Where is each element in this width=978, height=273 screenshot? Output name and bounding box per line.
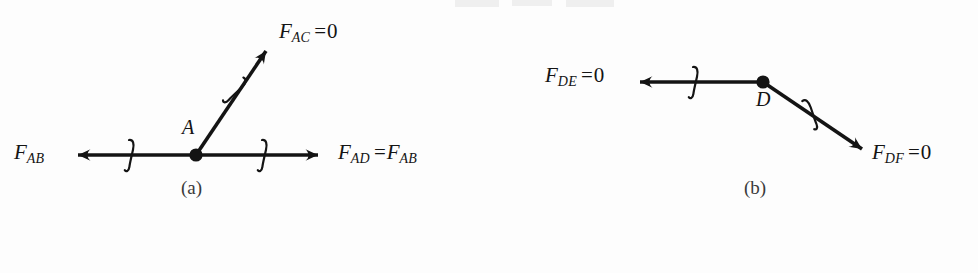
force-symbol: F: [545, 63, 558, 87]
figure-container: FAB FAD=FAB FAC=0 A (a) FDE=0 FDF=0 D (b…: [0, 0, 978, 273]
force-value-subscript: AB: [400, 151, 418, 166]
equals-sign: =: [310, 19, 327, 43]
force-symbol: F: [338, 140, 351, 164]
joint-dot-a: [189, 148, 202, 161]
panel-caption-a: (a): [181, 178, 202, 197]
force-subscript: DF: [885, 151, 904, 166]
force-label-ac: FAC=0: [279, 21, 337, 45]
equals-sign: =: [904, 140, 921, 164]
force-subscript: AD: [351, 151, 370, 166]
force-label-ab: FAB: [14, 142, 44, 166]
force-subscript: DE: [558, 74, 577, 89]
force-value: 0: [921, 140, 932, 164]
force-value: 0: [594, 63, 605, 87]
force-subscript: AB: [27, 151, 45, 166]
equals-sign: =: [577, 63, 594, 87]
force-label-ad: FAD=FAB: [338, 142, 417, 166]
joint-dot-d: [756, 75, 769, 88]
panel-b-artwork: [640, 67, 862, 149]
force-symbol: F: [279, 19, 292, 43]
force-symbol: F: [14, 140, 27, 164]
panel-a-artwork: [78, 51, 318, 171]
panel-caption-b: (b): [744, 178, 766, 197]
force-arrow-ac: [196, 51, 266, 155]
force-label-de: FDE=0: [545, 65, 604, 89]
member-hash-mark-ac: [222, 75, 247, 106]
force-value-symbol: F: [387, 140, 400, 164]
joint-label-d: D: [756, 89, 770, 109]
diagram-artwork: [0, 0, 978, 273]
joint-label-a: A: [182, 117, 194, 137]
force-label-df: FDF=0: [872, 142, 931, 166]
force-value: 0: [327, 19, 338, 43]
force-symbol: F: [872, 140, 885, 164]
force-subscript: AC: [292, 30, 310, 45]
equals-sign: =: [370, 140, 387, 164]
